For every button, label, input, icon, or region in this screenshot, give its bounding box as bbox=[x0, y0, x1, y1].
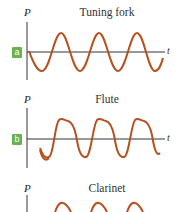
panel-b-x-label: t bbox=[167, 132, 170, 143]
panel-a-x-label: t bbox=[167, 45, 170, 56]
clarinet-wave-3 bbox=[127, 203, 143, 212]
panel-b-title: Flute bbox=[47, 93, 167, 105]
panel-c-title: Clarinet bbox=[47, 182, 167, 194]
clarinet-wave-1 bbox=[55, 203, 71, 212]
panel-b-y-label: P bbox=[24, 93, 31, 105]
flute-wave bbox=[40, 119, 160, 158]
panel-a-y-label: P bbox=[24, 6, 31, 18]
flute-wave-tail bbox=[40, 150, 49, 160]
panel-c-y-label: P bbox=[24, 182, 31, 194]
panel-a-title: Tuning fork bbox=[47, 6, 167, 18]
panel-a-badge: a bbox=[12, 47, 22, 58]
clarinet-wave-2 bbox=[91, 203, 107, 212]
waveform-diagram bbox=[0, 0, 182, 212]
panel-b-badge: b bbox=[12, 134, 22, 145]
